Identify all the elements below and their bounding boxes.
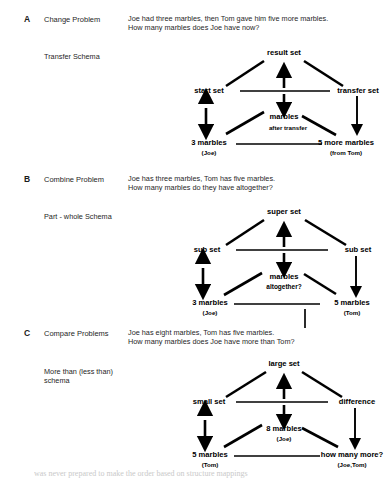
part-whole-schema-diagram: super set sub set sub set marbles altoge… <box>180 200 387 320</box>
problem-text-b: Joe has three marbles, Tom has five marb… <box>128 174 386 193</box>
node-a-right: transfer set <box>337 86 378 95</box>
transfer-schema-diagram: result set start set transfer set marble… <box>180 40 387 160</box>
more-than-schema-diagram: large set small set difference 8 marbles… <box>180 350 387 470</box>
node-b-left: sub set <box>194 245 221 254</box>
node-b-center: marbles <box>269 272 298 281</box>
node-a-bottom-left-label: 3 marbles <box>191 138 226 147</box>
node-c-bottom-right: how many more? (Joe,Tom) <box>321 450 383 469</box>
node-c-left: small set <box>193 397 226 406</box>
section-letter-c: C <box>24 328 30 338</box>
schema-label-c: More than (less than) schema <box>44 368 113 385</box>
schema-label-a: Transfer Schema <box>44 53 100 62</box>
node-a-bottom-left-sub: (Joe) <box>191 148 226 157</box>
node-b-bottom-left: 3 marbles (Joe) <box>192 298 227 317</box>
node-c-center: 8 marbles (Joe) <box>266 424 301 443</box>
node-b-center-sub: altogether? <box>266 282 301 291</box>
node-c-center-label: 8 marbles <box>266 424 301 433</box>
node-c-bottom-right-label: how many more? <box>321 450 383 459</box>
node-a-center: marbles <box>269 112 298 121</box>
node-a-bottom-right-label: 5 more marbles <box>318 138 374 147</box>
section-letter-b: B <box>24 174 30 184</box>
worksheet-page: A Change Problem Transfer Schema Joe had… <box>0 0 387 482</box>
section-combine-problem: B Combine Problem Part - whole Schema Jo… <box>0 160 387 315</box>
node-c-bottom-left-sub: (Tom) <box>192 460 227 469</box>
node-b-top: super set <box>267 207 301 216</box>
node-c-bottom-right-sub: (Joe,Tom) <box>321 460 383 469</box>
section-compare-problems: C Compare Problems More than (less than)… <box>0 315 387 482</box>
node-a-bottom-left: 3 marbles (Joe) <box>191 138 226 157</box>
node-c-top: large set <box>268 359 299 368</box>
node-a-bottom-right-sub: (from Tom) <box>318 148 374 157</box>
node-c-right: difference <box>339 397 375 406</box>
node-a-top: result set <box>267 48 301 57</box>
schema-label-b: Part - whole Schema <box>44 213 112 222</box>
section-title-c: Compare Problems <box>44 329 109 338</box>
node-a-bottom-right: 5 more marbles (from Tom) <box>318 138 374 157</box>
section-letter-a: A <box>24 14 30 24</box>
node-c-bottom-left-label: 5 marbles <box>192 450 227 459</box>
section-title-a: Change Problem <box>44 15 100 24</box>
problem-text-c: Joe has eight marbles, Tom has five marb… <box>128 328 386 347</box>
node-b-right: sub set <box>345 245 372 254</box>
problem-text-a: Joe had three marbles, then Tom gave him… <box>128 14 386 33</box>
page-caption-clipped: was never prepared to make the order bas… <box>34 469 364 481</box>
node-a-center-sub: after transfer <box>269 123 307 132</box>
node-c-center-sub: (Joe) <box>266 434 301 443</box>
node-b-bottom-left-label: 3 marbles <box>192 298 227 307</box>
node-b-bottom-right-label: 5 marbles <box>334 298 369 307</box>
node-b-bottom-right: 5 marbles (Tom) <box>334 298 369 317</box>
section-change-problem: A Change Problem Transfer Schema Joe had… <box>0 0 387 160</box>
node-a-left: start set <box>194 86 224 95</box>
node-c-bottom-left: 5 marbles (Tom) <box>192 450 227 469</box>
section-title-b: Combine Problem <box>44 175 104 184</box>
